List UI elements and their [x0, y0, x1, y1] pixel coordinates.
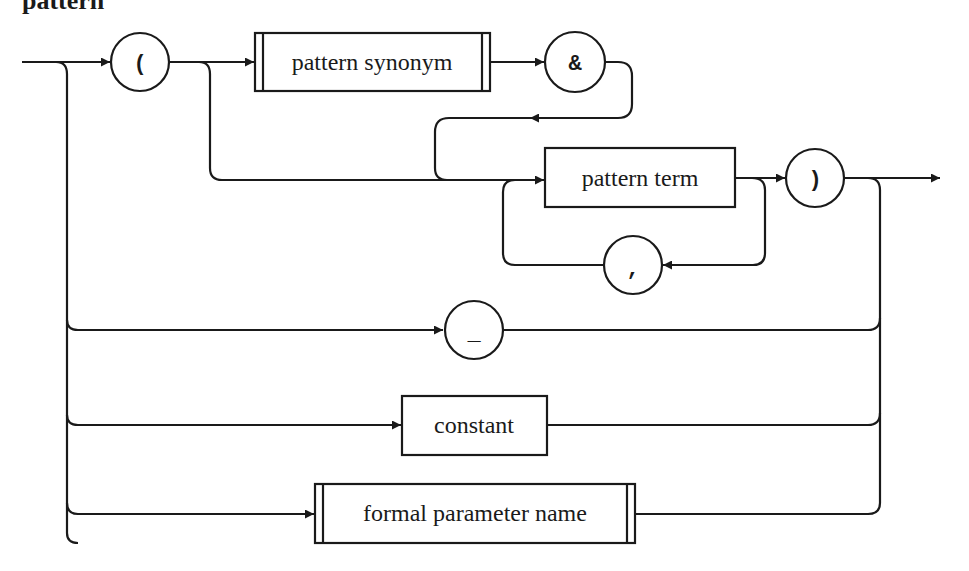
underscore-exit: [503, 318, 880, 330]
terminal-ampersand: &: [545, 32, 605, 92]
svg-text:_: _: [466, 322, 481, 347]
terminal-close-paren: ): [786, 149, 844, 207]
svg-text:pattern synonym: pattern synonym: [292, 49, 453, 75]
branch-underscore: [67, 320, 443, 330]
railroad-diagram: ( pattern synonym & pattern term , ): [0, 0, 969, 571]
svg-text:,: ,: [626, 257, 639, 282]
nonterminal-pattern-synonym: pattern synonym: [255, 33, 490, 91]
ampersand-join: [435, 118, 530, 180]
left-rail: [56, 62, 78, 543]
svg-text:&: &: [568, 52, 582, 77]
nonterminal-formal-parameter-name: formal parameter name: [315, 484, 635, 543]
svg-text:constant: constant: [434, 412, 514, 438]
terminal-underscore: _: [445, 301, 503, 359]
constant-exit: [547, 413, 880, 425]
svg-text:pattern term: pattern term: [582, 165, 699, 191]
nonterminal-constant: constant: [402, 396, 547, 455]
svg-text:): ): [808, 168, 821, 193]
right-rail: [868, 178, 880, 514]
svg-text:(: (: [133, 52, 146, 77]
branch-formal-parameter: [67, 503, 314, 514]
svg-text:formal parameter name: formal parameter name: [363, 500, 587, 526]
branch-constant: [67, 415, 401, 425]
terminal-open-paren: (: [111, 33, 169, 91]
terminal-comma: ,: [604, 236, 662, 294]
nonterminal-pattern-term: pattern term: [545, 148, 735, 207]
